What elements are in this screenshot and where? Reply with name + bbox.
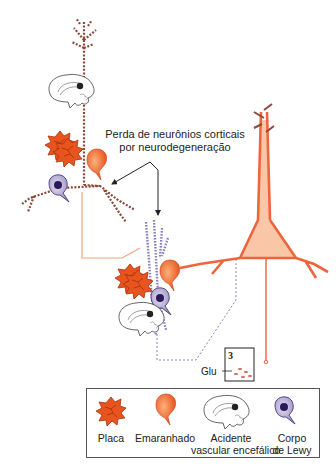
legend-item-plaque: Placa — [92, 432, 130, 444]
legend-label: Corpo — [270, 432, 314, 444]
legend-label-2: vascular encefálico — [191, 444, 271, 456]
legend-lewy-body-icon — [275, 397, 295, 424]
legend-tangle-icon — [156, 394, 176, 425]
legend-item-lewy-body: Corpo de Lewy — [270, 432, 314, 456]
lewy-body-icon — [49, 175, 69, 202]
legend: Placa Emaranhado Acidente vascular encef… — [86, 388, 320, 458]
legend-brain-stroke-icon — [204, 395, 249, 429]
neurodegeneration-diagram: Perda de neurônios corticais por neurode… — [0, 0, 336, 474]
arrow-left — [112, 162, 150, 184]
legend-item-tangle: Emaranhado — [135, 432, 195, 444]
degenerated-neuron-brown — [22, 18, 135, 222]
legend-label: Emaranhado — [135, 432, 195, 444]
stroke-brain-icon — [49, 74, 94, 108]
arrow-down — [150, 162, 158, 215]
callout-line-1: Perda de neurônios corticais — [100, 128, 250, 141]
legend-label-2: de Lewy — [270, 444, 314, 456]
legend-label: Acidente — [191, 432, 271, 444]
stroke-brain-icon — [119, 302, 164, 336]
axon-left — [82, 192, 140, 258]
glu-label: Glu — [201, 366, 217, 378]
legend-plaque-icon — [96, 397, 126, 426]
synapse-number: 3 — [228, 350, 233, 362]
callout-line-2: por neurodegeneração — [100, 141, 250, 154]
legend-item-stroke: Acidente vascular encefálico — [191, 432, 271, 456]
legend-label: Placa — [92, 432, 130, 444]
tangle-icon — [160, 260, 180, 291]
callout-label: Perda de neurônios corticais por neurode… — [100, 128, 250, 154]
